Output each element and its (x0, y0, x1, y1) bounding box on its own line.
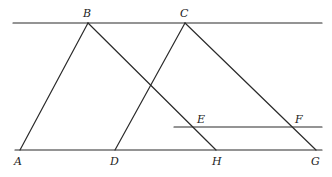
label-d: D (109, 155, 119, 168)
label-e: E (196, 113, 205, 126)
label-h: H (211, 155, 222, 168)
lines-group (13, 23, 322, 150)
label-a: A (13, 155, 22, 168)
segment-ab (20, 23, 88, 150)
label-b: B (82, 7, 91, 20)
segment-cg (185, 23, 316, 150)
segment-bh (88, 23, 216, 150)
label-f: F (294, 113, 303, 126)
label-c: C (180, 7, 189, 20)
segment-dc (115, 23, 185, 150)
label-g: G (311, 155, 320, 168)
geometry-diagram: B C A D E F H G (0, 0, 332, 177)
